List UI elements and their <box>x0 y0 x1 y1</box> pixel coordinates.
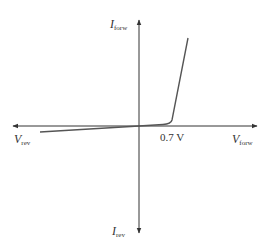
i-forw-label: Iforw <box>109 17 128 32</box>
v-rev-label: Vrev <box>14 132 31 147</box>
knee-voltage-label: 0.7 V <box>160 131 184 143</box>
diode-iv-diagram: Iforw Irev Vrev Vforw 0.7 V <box>0 0 272 250</box>
v-forw-label: Vforw <box>232 132 254 147</box>
i-rev-label: Irev <box>111 224 125 239</box>
iv-curve <box>40 38 188 132</box>
